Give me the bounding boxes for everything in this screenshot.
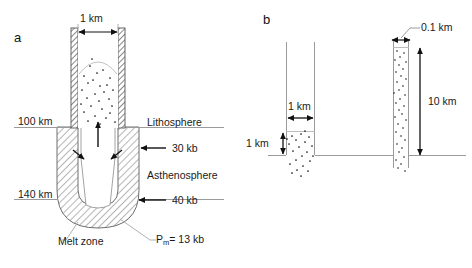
- left-column-width-label: 1 km: [288, 101, 311, 112]
- left-column-melt-dots: [286, 130, 314, 177]
- left-column-height-label: 1 km: [246, 138, 269, 149]
- conduit-wall-right: [118, 28, 125, 128]
- right-column-height-label: 10 km: [428, 96, 457, 107]
- right-width-leader: [401, 28, 420, 38]
- panel-b-label: b: [263, 13, 270, 26]
- right-column-melt-dots: [393, 50, 407, 172]
- melt-zone-label: Melt zone: [58, 236, 104, 247]
- depth-100km-label: 100 km: [18, 116, 52, 127]
- lithosphere-label: Lithosphere: [147, 117, 202, 128]
- depth-140km-label: 140 km: [18, 189, 52, 200]
- panel-a: [14, 24, 224, 240]
- conduit-width-label: 1 km: [80, 13, 103, 24]
- pm-label: Pm= 13 kb: [156, 234, 204, 247]
- panel-a-label: a: [14, 31, 21, 44]
- conduit-wall-left: [71, 28, 78, 128]
- pm-leader: [120, 219, 156, 240]
- right-column-width-label: 0.1 km: [421, 22, 453, 33]
- pm-value: = 13 kb: [169, 233, 204, 245]
- pm-symbol: P: [156, 233, 163, 245]
- pressure-30kb-label: 30 kb: [172, 143, 198, 154]
- asthenosphere-label: Asthenosphere: [147, 170, 218, 181]
- pressure-40kb-label: 40 kb: [172, 195, 198, 206]
- figure-canvas: [0, 0, 472, 268]
- conduit-interior: [78, 28, 118, 128]
